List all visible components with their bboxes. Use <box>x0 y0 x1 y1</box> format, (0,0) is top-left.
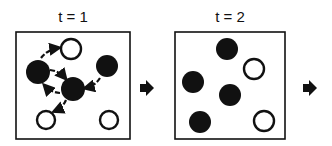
filled-circle <box>219 84 241 106</box>
step-arrow-icon <box>140 80 154 96</box>
filled-circle <box>26 60 50 84</box>
open-circle <box>254 111 274 131</box>
move-arrow-icon <box>55 100 66 111</box>
open-circle <box>244 59 264 79</box>
open-circle <box>37 111 55 129</box>
move-arrow-icon <box>41 48 58 58</box>
move-arrow-icon <box>50 70 65 78</box>
panel-2 <box>175 32 285 139</box>
open-circle <box>61 39 81 59</box>
diagram-canvas <box>0 0 332 146</box>
filled-circle <box>96 55 118 77</box>
filled-circle <box>216 38 238 60</box>
move-arrow-icon <box>45 86 60 93</box>
move-arrow-icon <box>86 78 100 88</box>
filled-circle <box>189 111 211 133</box>
filled-circle <box>61 77 85 101</box>
panel-1 <box>16 32 130 139</box>
step-arrow-icon <box>303 80 317 96</box>
filled-circle <box>182 71 204 93</box>
open-circle <box>100 111 118 129</box>
